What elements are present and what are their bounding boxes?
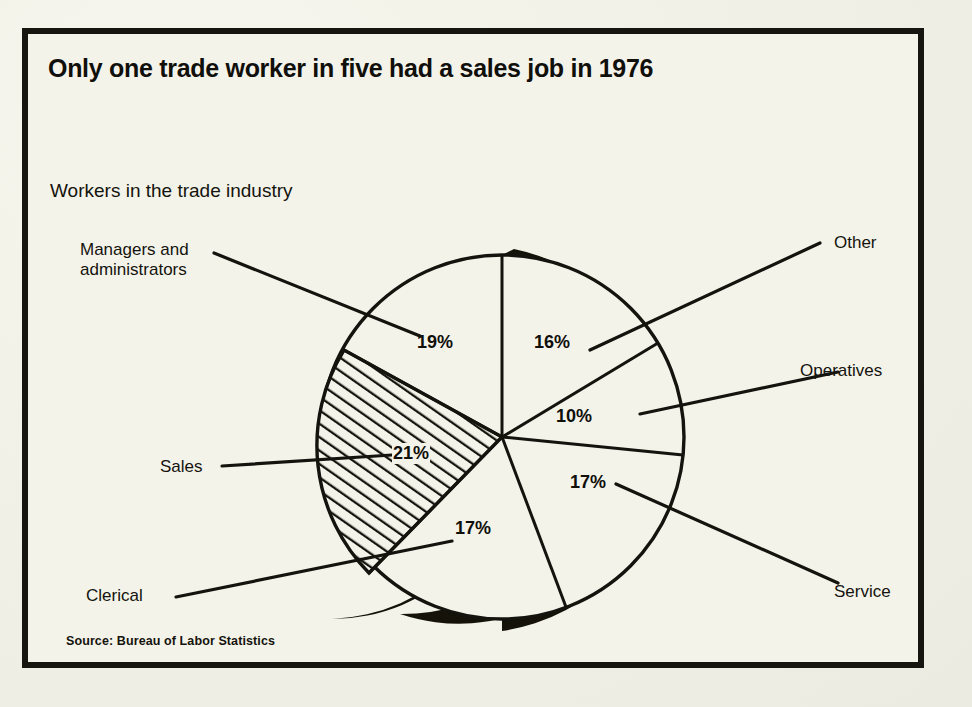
- leader-other: [590, 243, 820, 350]
- value-label-sales: 21%: [392, 443, 430, 464]
- callout-managers-and-administrators[interactable]: Managers and administrators: [80, 240, 189, 279]
- callout-operatives[interactable]: Operatives: [800, 361, 882, 381]
- callout-managers-line1: Managers and: [80, 240, 189, 260]
- value-label-managers: 19%: [417, 332, 453, 353]
- callout-sales[interactable]: Sales: [160, 457, 203, 477]
- pie-chart-svg: [0, 0, 972, 707]
- value-label-clerical: 17%: [455, 518, 491, 539]
- value-label-other: 16%: [534, 332, 570, 353]
- page-root: Only one trade worker in five had a sale…: [0, 0, 972, 707]
- callout-managers-line2: administrators: [80, 260, 189, 280]
- value-label-service: 17%: [570, 472, 606, 493]
- source-note: Source: Bureau of Labor Statistics: [66, 634, 275, 648]
- callout-service[interactable]: Service: [834, 582, 891, 602]
- callout-clerical[interactable]: Clerical: [86, 586, 143, 606]
- value-label-operatives: 10%: [556, 406, 592, 427]
- callout-other[interactable]: Other: [834, 233, 877, 253]
